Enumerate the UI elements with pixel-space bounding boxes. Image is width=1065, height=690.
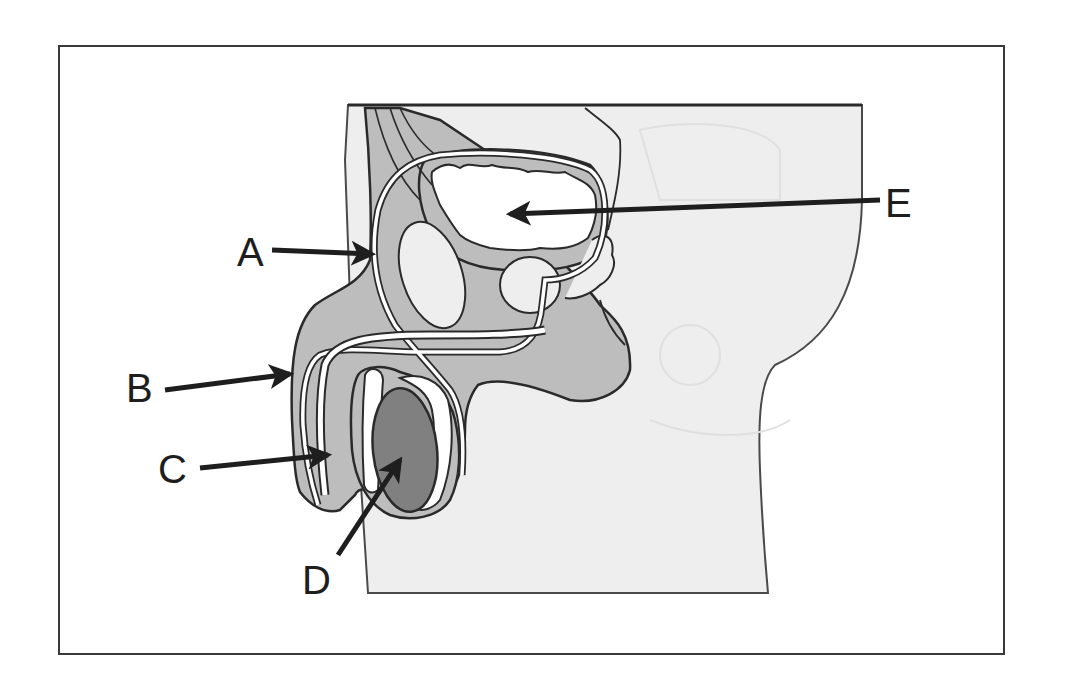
prostate	[500, 257, 560, 313]
label-b: B	[126, 368, 153, 408]
arrow-b	[165, 374, 290, 390]
label-c: C	[158, 449, 187, 489]
label-e: E	[885, 183, 912, 223]
reproductive-system-diagram	[0, 0, 1065, 690]
label-a: A	[237, 232, 264, 272]
label-d: D	[302, 560, 331, 600]
